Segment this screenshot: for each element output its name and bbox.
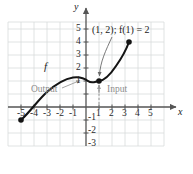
point-annotation: (1, 2); f(1) = 2 [92,25,150,35]
x-tick-label-4: 4 [135,109,140,119]
x-tick-label--3: -3 [43,109,51,119]
y-tick-label--1: -1 [88,113,96,123]
y-tick-label-3: 3 [76,50,81,60]
x-tick-label--1: -1 [69,109,77,119]
x-axis-label: x [178,107,182,117]
y-axis-label: y [74,2,78,12]
x-tick-label-3: 3 [122,109,127,119]
y-tick-label--2: -2 [88,126,96,136]
input-callout-label: Input [107,85,127,95]
x-tick-label--2: -2 [56,109,64,119]
y-tick-label-2: 2 [76,63,81,73]
right-endpoint-dot [126,39,132,45]
output-callout-label: Output [31,85,57,95]
y-tick-label-5: 5 [76,24,81,34]
x-tick-label-1: 1 [96,109,101,119]
x-tick-label-2: 2 [109,109,114,119]
curve-label-f: f [44,61,47,72]
annotation-leader-line [100,37,113,76]
x-tick-label--5: -5 [17,109,25,119]
y-tick-label-1: 1 [76,76,81,86]
x-tick-label-5: 5 [148,109,153,119]
x-tick-label--4: -4 [30,109,38,119]
function-graph-figure: y x (1, 2); f(1) = 2 f Output Input -5 -… [0,0,193,174]
y-tick-label--3: -3 [88,139,96,149]
marked-point-dot [96,78,102,84]
y-tick-label-4: 4 [76,37,81,47]
